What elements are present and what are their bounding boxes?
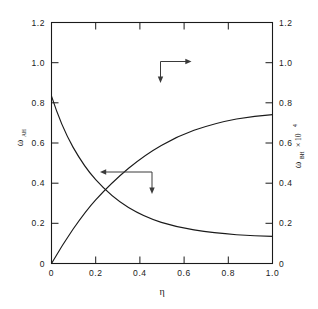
y-right-tick-labels: 0 0.2 0.4 0.6 0.8 1.0 1.2: [279, 18, 293, 269]
x-tick-label: 0.2: [89, 268, 103, 278]
y-left-axis-title: ω AH: [14, 129, 27, 146]
y-right-tick-label: 0.2: [279, 218, 293, 228]
right-axis-pointer: [158, 59, 192, 83]
curve-omega-bh: [52, 115, 273, 264]
plot-frame: [52, 23, 273, 264]
x-tick-label: 1.0: [266, 268, 280, 278]
y-left-tick-label: 0.4: [31, 178, 45, 188]
x-tick-labels: 0 0.2 0.4 0.6 0.8 1.0: [49, 268, 279, 278]
x-tick-label: 0.4: [133, 268, 147, 278]
y-right-axis-ticks: [266, 23, 273, 264]
y-right-tick-label: 1.0: [279, 58, 293, 68]
x-tick-label: 0.6: [177, 268, 191, 278]
chart-canvas: 0 0.2 0.4 0.6 0.8 1.0 0 0.2 0.4 0.6 0.8 …: [0, 0, 318, 309]
y-left-tick-labels: 0 0.2 0.4 0.6 0.8 1.0 1.2: [31, 18, 45, 269]
y-right-tick-label: 0.8: [279, 98, 293, 108]
x-axis-top-ticks: [96, 23, 229, 30]
right-arrowhead-icon: [185, 59, 191, 64]
y-left-tick-label: 0: [40, 259, 45, 269]
y-right-axis-title: ω BH × 10 4: [292, 124, 305, 168]
curve-omega-ah: [52, 96, 273, 236]
y-right-axis-title-subscript: BH: [299, 151, 305, 159]
down-arrowhead-icon: [149, 188, 154, 195]
y-left-tick-label: 1.2: [31, 18, 45, 28]
y-right-axis-title-exponent: 4: [292, 124, 298, 127]
left-axis-pointer: [100, 169, 155, 194]
y-left-axis-title-subscript: AH: [21, 129, 27, 137]
y-left-tick-label: 0.2: [31, 218, 45, 228]
down-arrowhead-icon: [158, 77, 163, 84]
x-axis-ticks: [52, 257, 273, 264]
y-right-axis-title-multiplier: × 10: [294, 133, 303, 147]
y-right-tick-label: 0: [279, 259, 284, 269]
y-left-tick-label: 0.8: [31, 98, 45, 108]
figure-container: 0 0.2 0.4 0.6 0.8 1.0 0 0.2 0.4 0.6 0.8 …: [0, 0, 318, 309]
left-arrowhead-icon: [100, 169, 106, 174]
y-right-tick-label: 1.2: [279, 18, 293, 28]
x-tick-label: 0.8: [221, 268, 235, 278]
y-left-tick-label: 0.6: [31, 138, 45, 148]
x-axis-title: η: [159, 286, 164, 297]
y-left-tick-label: 1.0: [31, 58, 45, 68]
x-tick-label: 0: [49, 268, 54, 278]
y-right-tick-label: 0.4: [279, 178, 293, 188]
y-right-tick-label: 0.6: [279, 138, 293, 148]
y-left-axis-title-symbol: ω: [14, 139, 25, 146]
y-right-axis-title-symbol: ω: [292, 161, 303, 168]
y-left-axis-ticks: [52, 23, 59, 264]
